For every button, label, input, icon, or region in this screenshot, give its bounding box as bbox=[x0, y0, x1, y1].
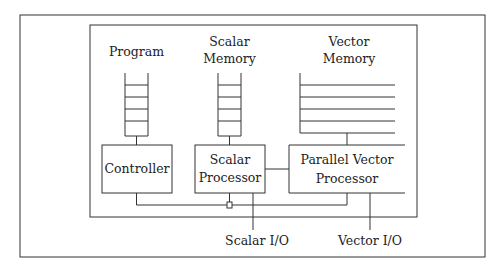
label-program: Program bbox=[109, 44, 164, 59]
label-parallel-vector-2: Processor bbox=[316, 171, 379, 186]
program-memory-stack bbox=[125, 73, 148, 145]
label-scalar-io: Scalar I/O bbox=[225, 233, 289, 248]
label-vector-memory-2: Memory bbox=[323, 51, 377, 66]
vector-memory-banks bbox=[300, 73, 395, 145]
label-vector-memory-1: Vector bbox=[328, 34, 370, 49]
label-scalar-memory-1: Scalar bbox=[209, 34, 249, 49]
label-scalar-processor-1: Scalar bbox=[210, 152, 250, 167]
scalar-memory-stack bbox=[218, 73, 241, 145]
label-parallel-vector-1: Parallel Vector bbox=[301, 152, 394, 167]
label-scalar-processor-2: Processor bbox=[199, 170, 262, 185]
control-bus bbox=[137, 193, 348, 205]
vector-processor-diagram: Program Scalar Memory Vector Memory Cont… bbox=[0, 0, 503, 271]
bus-junction-icon bbox=[227, 202, 232, 208]
label-scalar-memory-2: Memory bbox=[203, 51, 257, 66]
label-controller: Controller bbox=[104, 161, 169, 176]
label-vector-io: Vector I/O bbox=[337, 233, 402, 248]
